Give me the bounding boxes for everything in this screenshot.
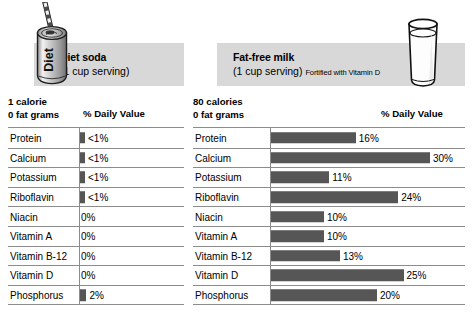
nutrient-label: Protein — [10, 132, 42, 143]
daily-value-percent: <1% — [88, 132, 108, 143]
nutrient-label: Vitamin D — [195, 270, 238, 281]
daily-value-bar — [80, 191, 85, 203]
daily-value-percent: 20% — [380, 290, 400, 301]
daily-value-bar — [80, 132, 85, 144]
diet-soda-table: Protein<1%Calcium<1%Potassium<1%Riboflav… — [8, 127, 184, 305]
fat-free-milk-product-name: Fat-free milk — [233, 50, 380, 64]
fat-free-milk-serving-note: Fortified with Vitamin D — [305, 68, 380, 77]
nutrient-label: Vitamin B-12 — [195, 250, 252, 261]
daily-value-bar — [271, 231, 324, 243]
daily-value-bar — [271, 152, 430, 164]
daily-value-percent: 13% — [343, 250, 363, 261]
table-row: Riboflavin24% — [193, 187, 465, 207]
daily-value-percent: 25% — [407, 270, 427, 281]
nutrient-label: Niacin — [10, 211, 38, 222]
table-row: Protein<1% — [8, 128, 184, 148]
table-row: Calcium<1% — [8, 148, 184, 168]
milk-glass-icon — [400, 14, 446, 90]
daily-value-bar — [271, 289, 377, 301]
diet-soda-stats: 1 calorie 0 fat grams — [8, 96, 59, 122]
table-row: Vitamin A10% — [193, 226, 465, 246]
daily-value-bar — [271, 191, 398, 203]
nutrient-label: Riboflavin — [10, 192, 54, 203]
daily-value-percent: <1% — [88, 152, 108, 163]
table-row: Potassium11% — [193, 167, 465, 187]
table-row: Phosphorus2% — [8, 285, 184, 305]
daily-value-percent: <1% — [88, 172, 108, 183]
fat-free-milk-serving-line: (1 cup serving) Fortified with Vitamin D — [233, 64, 380, 78]
table-row: Calcium30% — [193, 148, 465, 168]
daily-value-bar — [271, 172, 329, 184]
row-divider — [79, 227, 80, 246]
diet-soda-daily-value-header: % Daily Value — [83, 108, 145, 119]
nutrient-label: Vitamin A — [10, 231, 52, 242]
daily-value-percent: 0% — [81, 250, 95, 261]
diet-soda-fat: 0 fat grams — [8, 109, 59, 122]
nutrient-label: Phosphorus — [195, 290, 248, 301]
table-row: Potassium<1% — [8, 167, 184, 187]
nutrient-label: Vitamin A — [195, 231, 237, 242]
diet-soda-calories: 1 calorie — [8, 96, 59, 109]
daily-value-bar — [80, 172, 85, 184]
daily-value-percent: 0% — [81, 231, 95, 242]
daily-value-percent: 10% — [327, 211, 347, 222]
nutrient-label: Protein — [195, 132, 227, 143]
table-row: Vitamin A0% — [8, 226, 184, 246]
nutrient-label: Calcium — [10, 152, 46, 163]
daily-value-bar — [271, 132, 356, 144]
table-row: Vitamin D0% — [8, 265, 184, 285]
table-bottom-rule — [8, 304, 184, 305]
fat-free-milk-calories: 80 calories — [193, 96, 244, 109]
daily-value-percent: 0% — [81, 211, 95, 222]
fat-free-milk-daily-value-header: % Daily Value — [381, 108, 443, 119]
daily-value-percent: 24% — [401, 192, 421, 203]
table-row: Niacin10% — [193, 206, 465, 226]
fat-free-milk-header-text: Fat-free milk (1 cup serving) Fortified … — [233, 50, 380, 78]
daily-value-percent: 2% — [89, 290, 103, 301]
row-divider — [79, 207, 80, 226]
daily-value-percent: 0% — [81, 270, 95, 281]
fat-free-milk-serving: (1 cup serving) — [233, 65, 302, 77]
daily-value-bar — [271, 250, 340, 262]
nutrient-label: Potassium — [195, 172, 242, 183]
can-label-text: Diet — [42, 47, 56, 71]
fat-free-milk-fat: 0 fat grams — [193, 109, 244, 122]
table-row: Niacin0% — [8, 206, 184, 226]
nutrient-label: Niacin — [195, 211, 223, 222]
row-divider — [79, 266, 80, 285]
fat-free-milk-stats: 80 calories 0 fat grams — [193, 96, 244, 122]
table-bottom-rule — [193, 304, 465, 305]
nutrient-label: Potassium — [10, 172, 57, 183]
table-row: Vitamin B-1213% — [193, 246, 465, 266]
daily-value-percent: 30% — [433, 152, 453, 163]
daily-value-percent: <1% — [88, 192, 108, 203]
diet-soda-can-icon: Diet — [26, 2, 84, 88]
table-row: Phosphorus20% — [193, 285, 465, 305]
daily-value-bar — [271, 211, 324, 223]
nutrient-label: Vitamin D — [10, 270, 53, 281]
daily-value-bar — [80, 289, 86, 301]
nutrient-label: Calcium — [195, 152, 231, 163]
daily-value-bar — [80, 152, 85, 164]
nutrient-label: Vitamin B-12 — [10, 250, 67, 261]
daily-value-percent: 11% — [332, 172, 351, 183]
daily-value-percent: 10% — [327, 231, 347, 242]
row-divider — [79, 247, 80, 266]
table-row: Vitamin B-120% — [8, 246, 184, 266]
table-row: Protein16% — [193, 128, 465, 148]
nutrient-label: Phosphorus — [10, 290, 63, 301]
fat-free-milk-table: Protein16%Calcium30%Potassium11%Riboflav… — [193, 127, 465, 305]
table-row: Riboflavin<1% — [8, 187, 184, 207]
table-row: Vitamin D25% — [193, 265, 465, 285]
nutrient-label: Riboflavin — [195, 192, 239, 203]
daily-value-percent: 16% — [359, 132, 379, 143]
daily-value-bar — [271, 270, 404, 282]
